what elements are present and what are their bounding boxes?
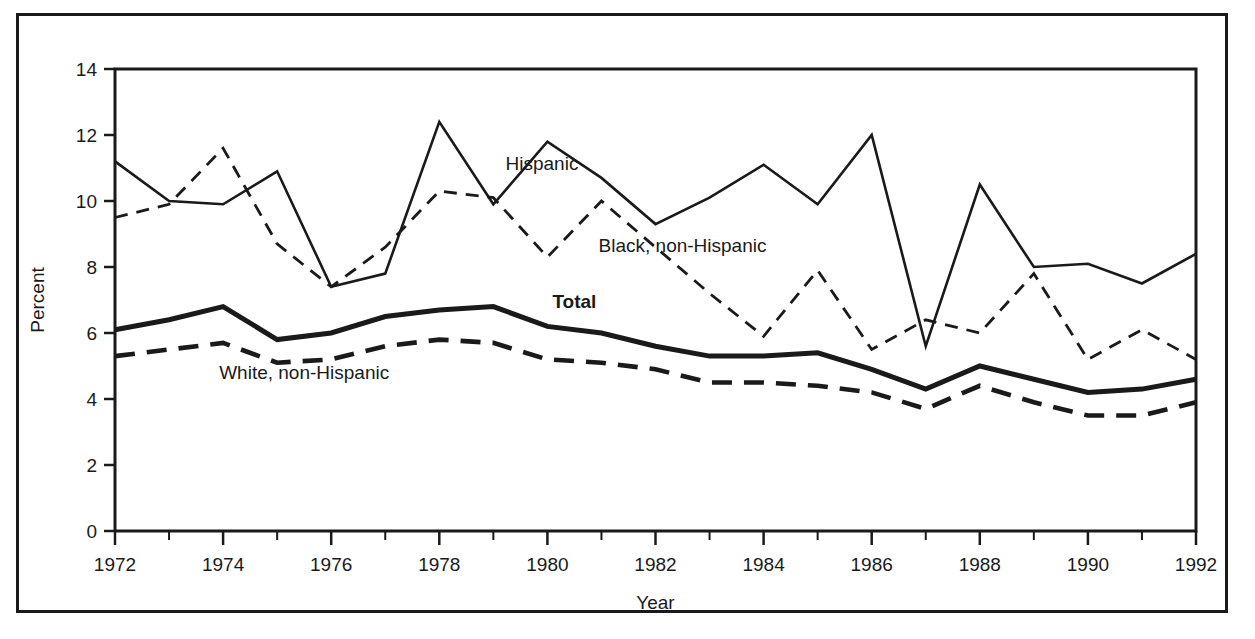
x-tick-label: 1992 (1175, 554, 1217, 575)
x-tick-label: 1972 (94, 554, 136, 575)
y-axis-ticks: 02468101214 (76, 59, 115, 542)
x-tick-label: 1988 (959, 554, 1001, 575)
y-tick-label: 8 (86, 257, 97, 278)
y-tick-label: 10 (76, 191, 97, 212)
y-tick-label: 0 (86, 521, 97, 542)
series-annotations: HispanicBlack, non-HispanicTotalWhite, n… (219, 153, 766, 383)
x-tick-label: 1984 (742, 554, 785, 575)
plot-axes (115, 69, 1196, 531)
series-line-0 (115, 122, 1196, 346)
line-chart: 02468101214 1972197419761978198019821984… (0, 0, 1255, 639)
series-label-3: White, non-Hispanic (219, 362, 389, 383)
x-axis-title: Year (636, 592, 675, 613)
y-tick-label: 12 (76, 125, 97, 146)
series-label-1: Black, non-Hispanic (599, 235, 767, 256)
x-tick-label: 1990 (1067, 554, 1109, 575)
series-label-2: Total (552, 291, 596, 312)
x-tick-label: 1976 (310, 554, 352, 575)
x-tick-label: 1986 (851, 554, 893, 575)
x-tick-label: 1978 (418, 554, 460, 575)
series-label-0: Hispanic (506, 153, 579, 174)
y-tick-label: 6 (86, 323, 97, 344)
figure-container: 02468101214 1972197419761978198019821984… (0, 0, 1255, 639)
x-tick-label: 1982 (634, 554, 676, 575)
y-tick-label: 14 (76, 59, 98, 80)
y-tick-label: 4 (86, 389, 97, 410)
x-tick-label: 1980 (526, 554, 568, 575)
x-tick-label: 1974 (202, 554, 245, 575)
y-tick-label: 2 (86, 455, 97, 476)
y-axis-title: Percent (27, 267, 48, 333)
plot-border (115, 69, 1196, 531)
x-axis-ticks: 1972197419761978198019821984198619881990… (94, 531, 1217, 575)
